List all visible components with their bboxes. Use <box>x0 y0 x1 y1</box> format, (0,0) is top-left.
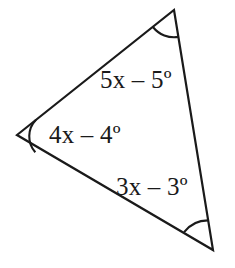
angle-label-left: 4x – 4º <box>49 122 121 147</box>
angle-label-bottom-right: 3x – 3º <box>116 174 188 199</box>
angle-label-top-right: 5x – 5º <box>100 67 172 92</box>
geometry-figure: 5x – 5º 4x – 4º 3x – 3º <box>0 0 235 268</box>
